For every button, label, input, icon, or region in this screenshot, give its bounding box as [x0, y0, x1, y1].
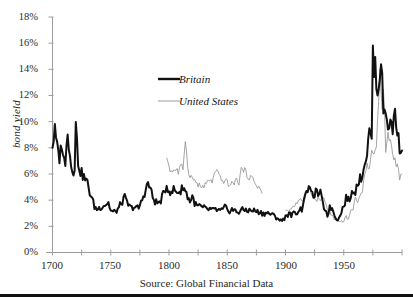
source-note: Source: Global Financial Data: [0, 277, 413, 289]
bottom-divider: [0, 294, 413, 297]
plot-area: [0, 0, 413, 299]
series-line-united-states: [167, 69, 402, 223]
bond-yield-chart: bond yield 18% 16% 14% 12% 10% 8% 6% 4% …: [0, 0, 413, 299]
series-line-britain: [53, 46, 403, 221]
legend-label-united-states: United States: [179, 95, 238, 107]
legend-label-britain: Britain: [179, 73, 210, 85]
